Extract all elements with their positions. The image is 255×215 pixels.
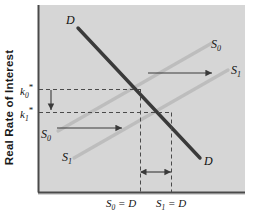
y-tick-label-k0: k0* xyxy=(20,82,33,100)
curve-label-s0-right-sub: 0 xyxy=(217,44,221,53)
curve-label-s1-left-sub: 1 xyxy=(68,157,72,166)
y-tick-k1-sup: * xyxy=(29,105,34,115)
y-tick-k1-sub: 1 xyxy=(25,114,29,123)
chart-canvas xyxy=(0,0,255,215)
curve-label-s0-left: S0 xyxy=(41,127,51,143)
curve-label-s1-left: S1 xyxy=(62,150,72,166)
x-tick-label-q1: S1 = D xyxy=(156,197,186,212)
curve-label-s1-right: S1 xyxy=(231,63,241,79)
x-tick-label-q0: S0 = D xyxy=(106,197,136,212)
curve-label-s0-left-sub: 0 xyxy=(47,134,51,143)
x-tick-q0-tail: = D xyxy=(115,197,136,209)
y-tick-label-k1: k1* xyxy=(20,105,33,123)
supply-demand-chart: Real Rate of Interest xyxy=(0,0,255,215)
x-tick-q1-tail: = D xyxy=(165,197,186,209)
supply-curve-s1 xyxy=(74,70,228,158)
y-tick-k0-sup: * xyxy=(29,82,34,92)
curve-label-demand-bottom-base: D xyxy=(204,154,213,168)
curve-label-s0-right: S0 xyxy=(211,37,221,53)
curve-label-demand-top-base: D xyxy=(66,13,75,27)
y-tick-k0-sub: 0 xyxy=(25,91,29,100)
curve-label-demand-top: D xyxy=(66,13,75,28)
demand-curve xyxy=(78,28,200,158)
curve-label-s1-right-sub: 1 xyxy=(237,70,241,79)
curve-label-demand-bottom: D xyxy=(204,154,213,169)
